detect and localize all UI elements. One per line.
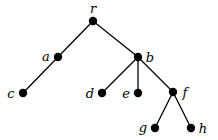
node-e: [134, 89, 142, 97]
node-label-b: b: [146, 51, 154, 64]
edge-r-b: [93, 21, 138, 57]
node-label-c: c: [7, 87, 14, 100]
edge-r-a: [58, 21, 93, 57]
node-label-e: e: [122, 87, 130, 100]
edge-f-g: [155, 92, 173, 128]
edge-b-d: [102, 57, 138, 93]
node-label-f: f: [183, 86, 188, 99]
tree-graphic: [0, 0, 218, 140]
edge-b-f: [138, 57, 173, 92]
node-b: [134, 53, 142, 61]
node-r: [89, 17, 97, 25]
node-g: [151, 124, 159, 132]
node-label-a: a: [42, 50, 50, 63]
node-d: [98, 89, 106, 97]
node-label-h: h: [199, 122, 207, 135]
tree-nodes: [19, 17, 195, 132]
node-label-r: r: [90, 2, 96, 15]
tree-diagram: r a b c d e f g h: [0, 0, 218, 140]
node-a: [54, 53, 62, 61]
node-h: [187, 124, 195, 132]
node-f: [169, 88, 177, 96]
node-label-d: d: [86, 87, 94, 100]
node-c: [19, 89, 27, 97]
tree-edges: [23, 21, 191, 128]
node-label-g: g: [139, 121, 147, 134]
edge-a-c: [23, 57, 58, 93]
